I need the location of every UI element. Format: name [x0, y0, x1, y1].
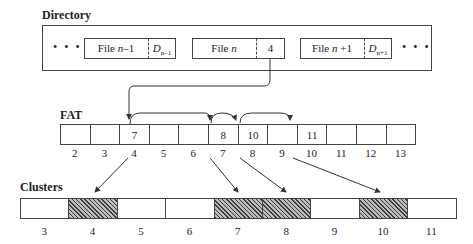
directory-to-fat-arrow: [129, 59, 270, 119]
fat-to-cluster-arrow-7: [210, 158, 238, 192]
fat-to-cluster-arrow-10: [293, 158, 380, 192]
fat-chain-arrow-8-10: [240, 113, 290, 123]
fat-chain-arrow-4-7: [130, 113, 210, 124]
arrows-layer: [0, 0, 473, 244]
fat-chain-arrow-7-8: [211, 113, 236, 123]
fat-to-cluster-arrow-4: [95, 158, 128, 192]
fat-to-cluster-arrow-8: [240, 158, 286, 192]
